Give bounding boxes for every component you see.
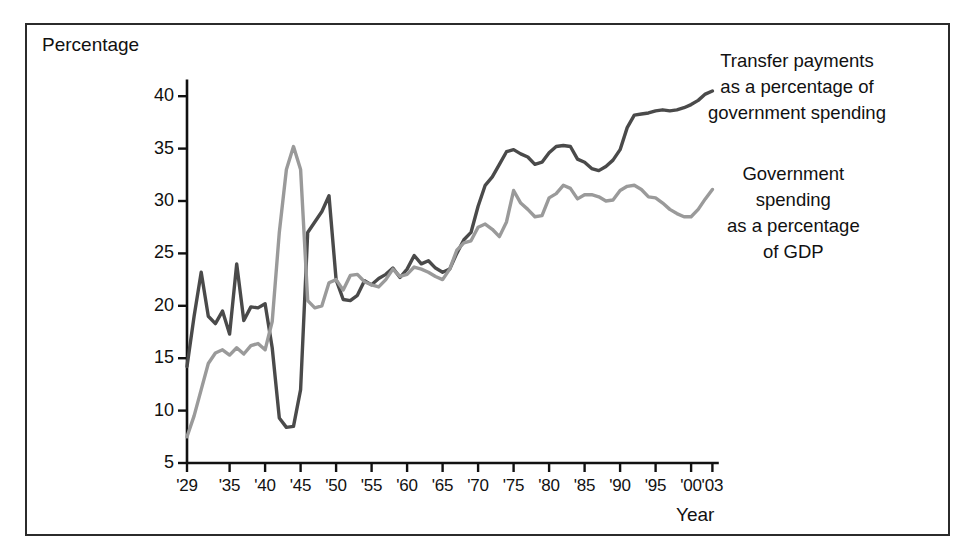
legend-line: Government	[727, 161, 860, 187]
legend-line: Transfer payments	[708, 48, 886, 74]
series-line	[187, 147, 712, 437]
legend-line: of GDP	[727, 239, 860, 265]
legend-line: as a percentage of	[708, 74, 886, 100]
legend-line: government spending	[708, 100, 886, 126]
series-line	[187, 91, 712, 427]
legend-line: spending	[727, 187, 860, 213]
chart-figure: Percentage Year 510152025303540 '29'35'4…	[0, 0, 975, 548]
legend-line: as a percentage	[727, 213, 860, 239]
legend-label-transfer-payments: Transfer paymentsas a percentage ofgover…	[708, 48, 886, 126]
axis-lines	[187, 79, 719, 463]
tick-marks	[178, 96, 712, 472]
legend-label-government-spending: Governmentspendingas a percentageof GDP	[727, 161, 860, 265]
data-series-lines	[187, 91, 712, 437]
